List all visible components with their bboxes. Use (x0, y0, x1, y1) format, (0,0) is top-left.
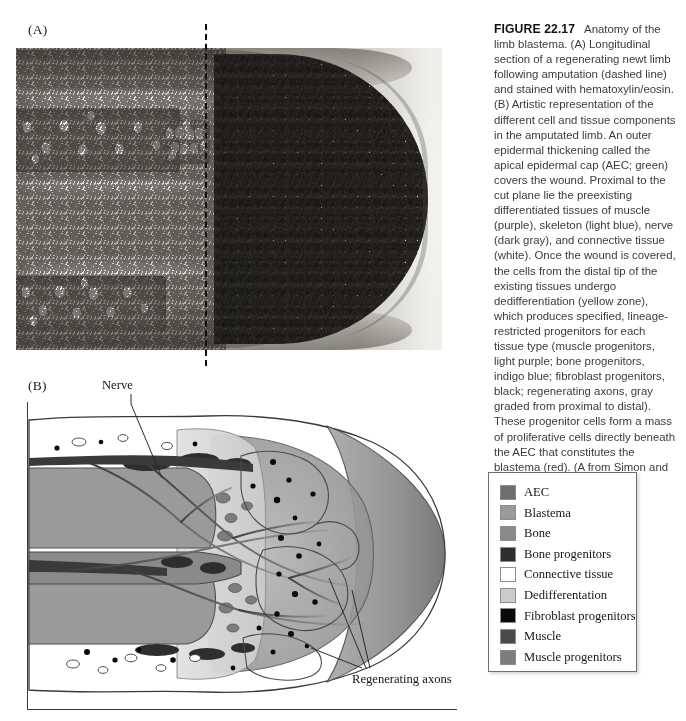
panel-b-diagram (27, 402, 457, 710)
legend-row: Muscle progenitors (489, 647, 636, 668)
micrograph-cartilage-proximal-upper (16, 108, 180, 172)
micrograph-cartilage-proximal-lower (16, 276, 166, 332)
micrograph-cartilage-distal (166, 120, 210, 164)
amputation-plane-dashed-line (205, 24, 207, 366)
legend-row: Fibroblast progenitors (489, 606, 636, 627)
legend-row: AEC (489, 482, 636, 503)
annotation-regenerating-axons-label: Regenerating axons (352, 672, 452, 687)
legend-swatch (500, 650, 516, 665)
legend-row: Connective tissue (489, 564, 636, 585)
legend-label: Muscle progenitors (524, 651, 622, 664)
micrograph-connective-band-1 (26, 92, 226, 108)
legend-swatch (500, 526, 516, 541)
legend-label: Bone (524, 527, 551, 540)
legend-label: Muscle (524, 630, 561, 643)
legend-label: Bone progenitors (524, 548, 611, 561)
legend-label: Dedifferentation (524, 589, 607, 602)
limb-diagram-svg (27, 402, 457, 710)
legend-swatch (500, 567, 516, 582)
legend-swatch (500, 629, 516, 644)
legend-row: Muscle (489, 626, 636, 647)
panel-a-micrograph (16, 48, 442, 350)
muscle-proximal-upper (29, 468, 216, 548)
legend-label: Blastema (524, 507, 571, 520)
figure-number: FIGURE 22.17 (494, 22, 575, 36)
legend-box: AECBlastemaBoneBone progenitorsConnectiv… (488, 472, 637, 672)
legend-label: AEC (524, 486, 549, 499)
micrograph-connective-band-3 (24, 262, 210, 277)
legend-row: Bone progenitors (489, 544, 636, 565)
legend-swatch (500, 485, 516, 500)
figure-caption: FIGURE 22.17 Anatomy of the limb blastem… (494, 22, 676, 490)
legend-swatch (500, 547, 516, 562)
legend-swatch (500, 608, 516, 623)
panel-a-label: (A) (28, 22, 47, 38)
legend-row: Blastema (489, 503, 636, 524)
legend-swatch (500, 588, 516, 603)
legend-row: Dedifferentation (489, 585, 636, 606)
annotation-nerve-label: Nerve (102, 378, 133, 393)
figure-caption-body: (A) Longitudinal section of a regenerati… (494, 38, 676, 488)
micrograph-connective-band-2 (20, 180, 210, 193)
legend-label: Fibroblast progenitors (524, 610, 636, 623)
legend-swatch (500, 505, 516, 520)
panel-b-label: (B) (28, 378, 47, 394)
legend-label: Connective tissue (524, 568, 613, 581)
legend-row: Bone (489, 523, 636, 544)
